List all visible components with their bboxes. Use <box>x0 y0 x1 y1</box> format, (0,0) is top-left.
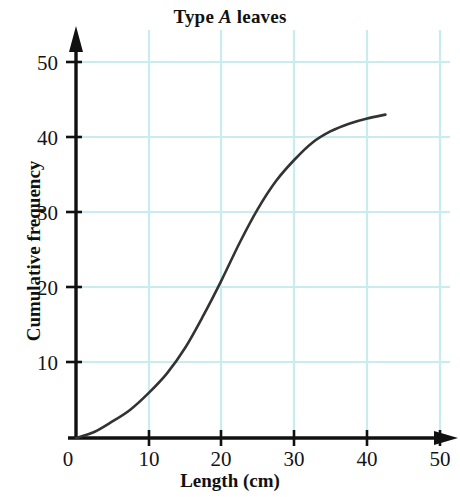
chart-plot-area: 50 40 30 20 10 0 10 20 30 40 50 <box>0 0 460 497</box>
x-tick-label-50: 50 <box>430 447 451 471</box>
x-axis-title: Length (cm) <box>0 470 460 492</box>
x-tick-label-10: 10 <box>139 447 160 471</box>
gridlines <box>76 30 450 437</box>
x-tick-label-30: 30 <box>284 447 305 471</box>
axes <box>66 26 458 446</box>
y-tick-label-50: 50 <box>37 51 58 75</box>
cumulative-frequency-curve <box>76 115 385 438</box>
y-axis-arrow-icon <box>69 26 83 52</box>
chart-container: Type A leaves <box>0 0 460 497</box>
x-tick-label-40: 40 <box>357 447 378 471</box>
y-axis-title: Cumulative frequency <box>23 91 45 411</box>
y-tick-label-0: 0 <box>63 447 74 471</box>
x-tick-labels: 10 20 30 40 50 <box>139 447 451 471</box>
x-axis-arrow-icon <box>434 431 458 445</box>
x-tick-label-20: 20 <box>211 447 232 471</box>
